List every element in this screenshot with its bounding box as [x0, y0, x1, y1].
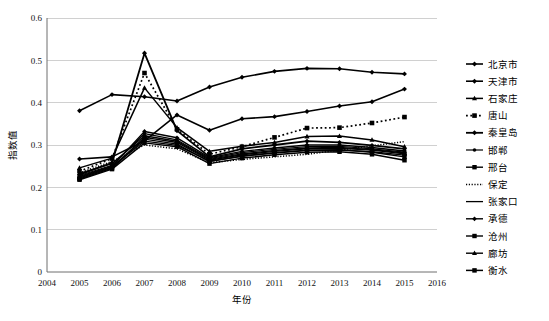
legend-item-3[interactable]: 唐山	[466, 110, 508, 121]
legend-label: 唐山	[488, 110, 508, 121]
x-tick-label: 2012	[298, 278, 316, 288]
legend-label: 邯郸	[488, 145, 508, 156]
data-point-marker	[337, 66, 342, 71]
data-point-marker	[402, 71, 407, 76]
data-point-marker	[472, 234, 476, 238]
data-point-marker	[337, 150, 341, 154]
chart-container: 00.10.20.30.40.50.6 20042005200620072008…	[0, 0, 549, 321]
y-tick-label: 0.6	[31, 13, 43, 23]
legend-item-7[interactable]: 保定	[466, 179, 508, 190]
x-tick-label: 2013	[331, 278, 350, 288]
data-point-marker	[272, 153, 276, 157]
legend-item-1[interactable]: 天津市	[466, 76, 518, 87]
y-tick-label: 0.2	[31, 183, 42, 193]
x-tick-label: 2009	[201, 278, 220, 288]
data-point-marker	[240, 156, 244, 160]
x-tick-label: 2004	[38, 278, 57, 288]
legend-label: 衡水	[488, 265, 508, 276]
series-0	[77, 66, 407, 113]
data-point-marker	[142, 85, 147, 90]
legend-item-2[interactable]: 石家庄	[466, 93, 518, 104]
legend-label: 秦皇岛	[488, 127, 518, 138]
legend-label: 保定	[488, 179, 508, 190]
data-point-marker	[175, 144, 179, 148]
data-point-marker	[370, 99, 375, 104]
y-tick-label: 0.3	[31, 140, 43, 150]
data-point-marker	[240, 116, 245, 121]
data-point-marker	[305, 109, 310, 114]
data-point-marker	[472, 268, 476, 272]
y-tick-labels: 00.10.20.30.40.50.6	[31, 13, 43, 277]
y-tick-label: 0.4	[31, 98, 43, 108]
legend: 北京市天津市石家庄唐山秦皇岛邯郸邢台保定张家口承德沧州廊坊衡水	[466, 59, 518, 276]
data-point-marker	[142, 141, 146, 145]
legend-label: 邢台	[488, 162, 508, 173]
data-point-marker	[305, 126, 310, 131]
grid-lines	[47, 18, 437, 230]
data-point-marker	[272, 135, 277, 140]
legend-label: 张家口	[488, 196, 518, 207]
data-point-marker	[142, 71, 147, 76]
data-point-marker	[472, 62, 477, 67]
x-axis-title: 年份	[232, 294, 252, 305]
y-axis-title: 指数值	[7, 130, 18, 160]
data-point-marker	[272, 69, 277, 74]
data-point-marker	[472, 130, 477, 135]
legend-label: 北京市	[488, 59, 518, 70]
data-point-marker	[240, 75, 245, 80]
data-point-marker	[402, 115, 407, 120]
x-tick-label: 2005	[71, 278, 90, 288]
y-tick-label: 0.5	[31, 56, 43, 66]
legend-label: 石家庄	[488, 93, 518, 104]
legend-item-10[interactable]: 沧州	[466, 231, 508, 242]
data-point-marker	[402, 158, 406, 162]
legend-label: 天津市	[488, 76, 518, 87]
data-point-marker	[207, 128, 212, 133]
data-point-marker	[142, 94, 147, 99]
data-point-marker	[472, 165, 476, 169]
data-point-marker	[77, 177, 81, 181]
line-chart: 00.10.20.30.40.50.6 20042005200620072008…	[0, 0, 549, 321]
x-tick-label: 2015	[396, 278, 415, 288]
x-tick-label: 2007	[136, 278, 155, 288]
x-tick-label: 2006	[103, 278, 122, 288]
data-point-marker	[402, 87, 407, 92]
legend-item-9[interactable]: 承德	[466, 213, 508, 224]
data-point-marker	[305, 66, 310, 71]
x-tick-label: 2010	[233, 278, 252, 288]
y-tick-label: 0	[38, 267, 43, 277]
data-point-marker	[207, 161, 211, 165]
data-point-marker	[370, 121, 375, 126]
x-tick-labels: 2004200520062007200820092010201120122013…	[38, 278, 447, 288]
data-point-marker	[207, 85, 212, 90]
data-point-marker	[142, 51, 147, 56]
data-point-marker	[472, 216, 477, 221]
data-point-marker	[473, 148, 477, 152]
x-tick-label: 2008	[168, 278, 187, 288]
x-tick-label: 2016	[428, 278, 447, 288]
data-point-marker	[110, 167, 114, 171]
legend-label: 沧州	[488, 231, 508, 242]
data-point-marker	[472, 79, 477, 84]
data-point-marker	[337, 125, 342, 130]
legend-item-11[interactable]: 廊坊	[466, 248, 508, 259]
series-layer	[77, 51, 407, 182]
data-point-marker	[472, 113, 477, 118]
data-point-marker	[272, 114, 277, 119]
data-point-marker	[305, 150, 309, 154]
legend-item-12[interactable]: 衡水	[466, 265, 508, 276]
legend-item-4[interactable]: 秦皇岛	[466, 127, 518, 138]
legend-item-0[interactable]: 北京市	[466, 59, 518, 70]
x-tick-label: 2011	[266, 278, 284, 288]
data-point-marker	[337, 104, 342, 109]
data-point-marker	[370, 152, 374, 156]
x-tick-label: 2014	[363, 278, 382, 288]
data-point-marker	[77, 157, 82, 162]
legend-label: 承德	[488, 213, 508, 224]
legend-label: 廊坊	[488, 248, 508, 259]
data-point-marker	[370, 70, 375, 75]
legend-item-5[interactable]: 邯郸	[466, 145, 508, 156]
y-tick-label: 0.1	[31, 225, 42, 235]
legend-item-6[interactable]: 邢台	[466, 162, 508, 173]
legend-item-8[interactable]: 张家口	[466, 196, 518, 207]
